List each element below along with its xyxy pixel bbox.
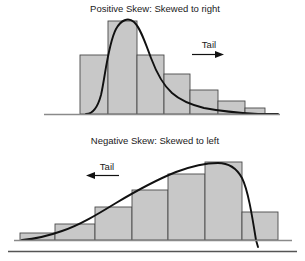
skewness-figure: Positive Skew: Skewed to right Tail Nega…	[0, 0, 305, 261]
tail-label: Tail	[100, 161, 114, 172]
arrow-right-icon	[215, 51, 224, 58]
negative-skew-tail-annotation: Tail	[86, 161, 119, 179]
table-row	[205, 162, 242, 240]
arrow-left-icon	[86, 172, 95, 179]
table-row	[164, 74, 190, 114]
table-row	[168, 174, 205, 240]
positive-skew-title: Positive Skew: Skewed to right	[90, 3, 220, 14]
table-row	[108, 21, 137, 114]
table-row	[242, 212, 278, 240]
positive-skew-tail-annotation: Tail	[192, 39, 224, 58]
table-row	[137, 55, 164, 114]
negative-skew-title: Negative Skew: Skewed to left	[91, 135, 220, 146]
table-row	[132, 190, 168, 240]
positive-skew-bars	[80, 21, 265, 114]
negative-skew-chart: Negative Skew: Skewed to left Tail	[14, 135, 292, 247]
positive-skew-chart: Positive Skew: Skewed to right Tail	[44, 3, 280, 115]
tail-label: Tail	[202, 39, 216, 50]
skew-diagram-svg: Positive Skew: Skewed to right Tail Nega…	[0, 0, 305, 261]
